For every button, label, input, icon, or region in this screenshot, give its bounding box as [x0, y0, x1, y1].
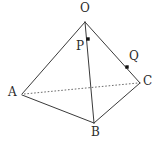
edge-A-C-dashed	[24, 83, 138, 94]
point-P-dot	[86, 37, 89, 40]
label-O: O	[80, 2, 90, 14]
tetrahedron-figure: O A B C P Q	[0, 0, 158, 141]
edge-O-A	[22, 22, 85, 94]
edge-B-C	[94, 83, 140, 123]
label-C: C	[143, 75, 152, 87]
point-Q-dot	[125, 65, 128, 68]
label-Q: Q	[129, 50, 139, 62]
label-P: P	[76, 40, 84, 52]
tetrahedron-svg	[0, 0, 158, 141]
label-A: A	[8, 86, 17, 98]
edge-O-B	[85, 22, 94, 123]
edge-A-B	[22, 95, 94, 123]
label-B: B	[91, 126, 100, 138]
